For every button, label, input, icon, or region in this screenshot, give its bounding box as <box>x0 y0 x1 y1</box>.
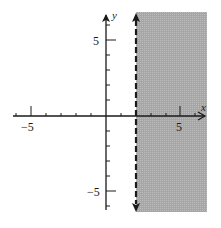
x-tick-label-5: 5 <box>176 120 182 134</box>
x-axis-label: x <box>200 101 206 113</box>
shaded-region <box>136 12 207 212</box>
y-tick-label-5: 5 <box>93 34 99 48</box>
y-tick-label-neg5: −5 <box>87 185 100 199</box>
y-axis-label: y <box>111 9 117 21</box>
inequality-graph: x y −5 5 5 −5 <box>0 0 221 228</box>
x-tick-label-neg5: −5 <box>21 120 34 134</box>
